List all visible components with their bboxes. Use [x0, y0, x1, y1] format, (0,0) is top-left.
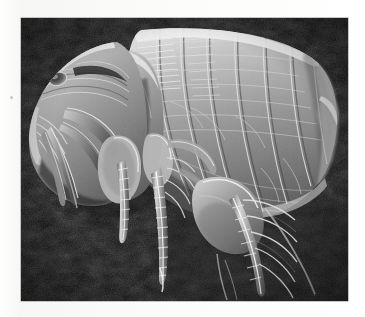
flea-sem-micrograph	[21, 18, 348, 301]
page-canvas: flea	[0, 0, 365, 317]
dust-speck	[10, 96, 13, 99]
micrograph-canvas	[21, 18, 348, 301]
